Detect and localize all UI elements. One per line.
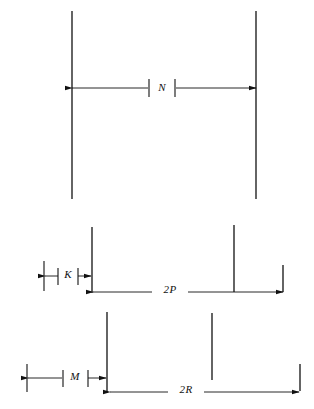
dimension-label-k: K bbox=[63, 268, 72, 280]
technical-dimension-diagram: N K 2P M bbox=[0, 0, 314, 409]
dimension-label-two-p: 2P bbox=[163, 283, 176, 295]
dimension-label-two-r: 2R bbox=[179, 383, 192, 395]
diagram-canvas: N K 2P M bbox=[0, 0, 314, 409]
dimension-label-m: M bbox=[69, 370, 80, 382]
section-top-overall-width: N bbox=[72, 11, 256, 199]
section-middle-k-2p: K 2P bbox=[44, 225, 283, 295]
section-bottom-m-2r: M 2R bbox=[27, 312, 300, 395]
dimension-label-n: N bbox=[157, 81, 166, 93]
